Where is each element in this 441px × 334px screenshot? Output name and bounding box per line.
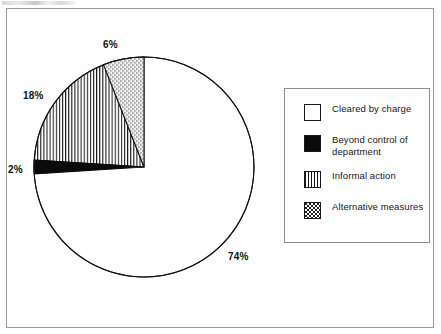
legend: Cleared by charge Beyond control of depa…	[284, 88, 430, 243]
legend-swatch-solid-black-icon	[304, 135, 321, 152]
legend-label-beyond-control: Beyond control of department	[332, 134, 408, 157]
legend-item-cleared-by-charge[interactable]: Cleared by charge	[304, 103, 426, 121]
legend-swatch-vertical-lines-icon	[304, 171, 321, 188]
pie-label-18: 18%	[23, 90, 44, 101]
legend-item-alternative-measures[interactable]: Alternative measures	[304, 201, 426, 219]
pie-label-2: 2%	[8, 164, 23, 175]
pie-label-74: 74%	[228, 251, 249, 262]
legend-item-informal-action[interactable]: Informal action	[304, 170, 426, 188]
figure-canvas: 6% 18% 2% 74% Cleared by charge Beyond c…	[0, 0, 441, 334]
legend-label-alternative-measures: Alternative measures	[332, 201, 423, 213]
pie-label-6: 6%	[103, 39, 118, 50]
legend-items: Cleared by charge Beyond control of depa…	[304, 103, 426, 219]
legend-item-beyond-control[interactable]: Beyond control of department	[304, 134, 426, 157]
legend-label-informal-action: Informal action	[332, 170, 396, 182]
legend-label-cleared-by-charge: Cleared by charge	[332, 103, 411, 115]
legend-swatch-white-icon	[304, 104, 321, 121]
legend-swatch-stipple-icon	[304, 202, 321, 219]
